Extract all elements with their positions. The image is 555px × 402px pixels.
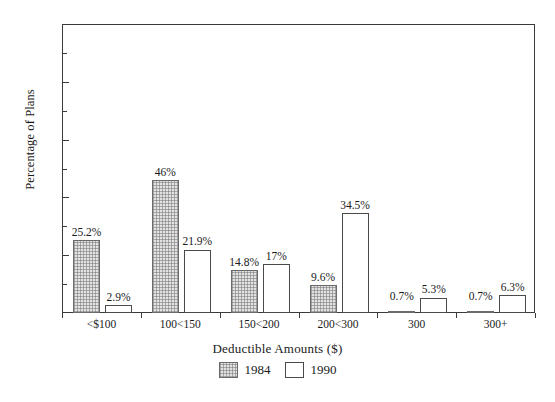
x-tick-label-lt100: <$100 (87, 318, 117, 330)
bar-1984-100-150 (152, 180, 179, 313)
x-tick-label-200-300: 200<300 (317, 318, 358, 330)
y-tick-10 (62, 284, 67, 285)
x-tick-label-300plus: 300+ (484, 318, 508, 330)
bar-value-1990-300plus: 6.3% (501, 281, 525, 293)
legend-item-1984: 1984 (219, 362, 271, 378)
bar-value-1984-300plus: 0.7% (469, 290, 493, 302)
bar-value-1990-300: 5.3% (422, 283, 446, 295)
bar-value-1990-lt100: 2.9% (107, 291, 131, 303)
x-tick-1 (141, 313, 142, 318)
bar-chart: Percentage of Plans 100% 80 60 40 20 0 2… (0, 0, 555, 402)
bar-1984-300 (388, 311, 415, 313)
y-tick-100 (62, 24, 69, 25)
x-tick-label-300: 300 (408, 318, 425, 330)
bar-1990-300plus (499, 295, 526, 313)
bar-1984-150-200 (231, 270, 258, 313)
plot-area (62, 24, 535, 313)
bar-1990-150-200 (263, 264, 290, 313)
bar-value-1984-100-150: 46% (155, 166, 176, 178)
x-tick-label-150-200: 150<200 (239, 318, 280, 330)
bar-1990-300 (420, 298, 447, 313)
bar-1984-300plus (467, 311, 494, 313)
bar-1990-200-300 (342, 213, 369, 313)
legend-swatch-1984-icon (219, 362, 238, 378)
y-tick-90 (62, 53, 67, 54)
y-tick-70 (62, 111, 67, 112)
y-tick-80 (62, 82, 69, 83)
y-tick-40 (62, 197, 69, 198)
bar-1990-lt100 (105, 305, 132, 313)
legend-swatch-1990-icon (285, 362, 304, 378)
legend-label-1984: 1984 (245, 362, 271, 378)
y-axis-title: Percentage of Plans (23, 0, 38, 290)
bar-value-1984-lt100: 25.2% (72, 226, 102, 238)
y-tick-60 (62, 140, 69, 141)
bar-1984-200-300 (310, 285, 337, 313)
legend-item-1990: 1990 (285, 362, 337, 378)
x-tick-4 (377, 313, 378, 318)
legend-label-1990: 1990 (311, 362, 337, 378)
x-tick-3 (299, 313, 300, 318)
x-tick-5 (456, 313, 457, 318)
bar-1990-100-150 (184, 250, 211, 313)
bar-value-1984-300: 0.7% (390, 290, 414, 302)
x-tick-label-100-150: 100<150 (160, 318, 201, 330)
x-tick-2 (220, 313, 221, 318)
chart-legend: 1984 1990 (0, 362, 555, 378)
x-tick-0 (62, 313, 63, 318)
bar-value-1990-100-150: 21.9% (182, 235, 212, 247)
x-axis-title: Deductible Amounts ($) (0, 341, 555, 357)
bar-value-1984-200-300: 9.6% (311, 271, 335, 283)
y-tick-50 (62, 169, 67, 170)
bar-1984-lt100 (73, 240, 100, 313)
y-tick-20 (62, 255, 69, 256)
x-tick-6 (535, 313, 536, 318)
y-tick-30 (62, 226, 67, 227)
bar-value-1990-150-200: 17% (266, 250, 287, 262)
bar-value-1984-150-200: 14.8% (229, 256, 259, 268)
bar-value-1990-200-300: 34.5% (340, 199, 370, 211)
